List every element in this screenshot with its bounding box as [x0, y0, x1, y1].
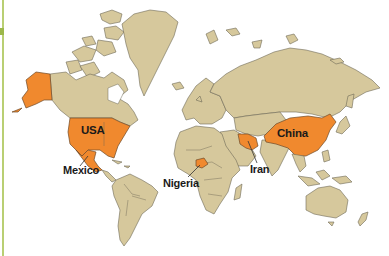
label-mexico: Mexico — [63, 164, 99, 176]
world-map — [0, 0, 389, 256]
southeast-asia — [292, 154, 306, 172]
central-america — [102, 170, 116, 182]
label-iran: Iran — [250, 163, 269, 175]
new-zealand — [358, 212, 368, 226]
australia — [306, 186, 348, 218]
japan — [336, 116, 350, 134]
map-figure: USA Mexico Nigeria Iran China — [0, 0, 389, 256]
greenland — [122, 10, 178, 96]
alaska — [22, 72, 52, 108]
arctic-islands — [66, 10, 124, 78]
label-nigeria: Nigeria — [163, 177, 199, 189]
madagascar — [234, 184, 242, 200]
label-usa: USA — [81, 124, 105, 136]
south-america — [112, 174, 158, 246]
russia — [210, 48, 380, 118]
iceland — [172, 82, 184, 90]
label-china: China — [277, 127, 308, 139]
